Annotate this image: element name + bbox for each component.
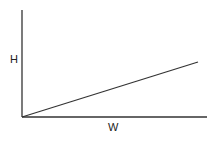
data-line — [22, 62, 198, 117]
chart-canvas — [0, 0, 218, 141]
x-axis-label: W — [108, 121, 118, 133]
y-axis-label: H — [10, 53, 18, 65]
